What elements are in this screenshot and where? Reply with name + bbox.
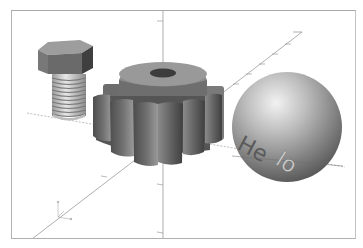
sphere[interactable]: He lo <box>232 72 343 182</box>
bolt-hex-head <box>38 40 93 74</box>
bolt-threads <box>52 74 86 121</box>
hex-bolt[interactable] <box>38 40 93 121</box>
scene-canvas[interactable]: He lo <box>0 0 363 248</box>
gear-teeth <box>93 94 222 166</box>
spur-gear[interactable] <box>93 62 224 166</box>
